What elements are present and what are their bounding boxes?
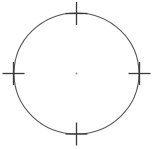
drawing-canvas bbox=[0, 0, 153, 149]
circle-crosshair-figure bbox=[0, 0, 153, 149]
center-dot bbox=[76, 73, 78, 75]
